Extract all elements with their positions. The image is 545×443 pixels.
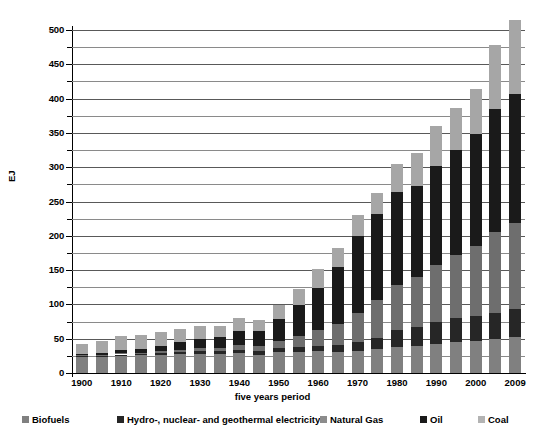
bar-segment-natural	[352, 313, 364, 343]
y-axis-tick-label: 100	[30, 298, 64, 309]
bar-segment-oil	[293, 305, 305, 336]
bar-1990	[430, 126, 442, 373]
bar-segment-oil	[391, 192, 403, 285]
bar-1940	[233, 318, 245, 373]
bar-segment-coal	[76, 344, 88, 354]
bar-segment-biofuels	[352, 351, 364, 373]
legend-item-coal[interactable]: Coal	[478, 414, 509, 425]
bar-segment-biofuels	[214, 354, 226, 373]
bar-segment-oil	[233, 331, 245, 345]
bar-segment-oil	[371, 214, 383, 300]
bar-segment-coal	[96, 341, 108, 353]
bar-2000	[470, 89, 482, 373]
bar-segment-natural	[332, 324, 344, 345]
bar-segment-biofuels	[332, 352, 344, 373]
bar-1935	[214, 326, 226, 373]
bar-segment-oil	[470, 134, 482, 246]
bar-1925	[174, 329, 186, 373]
legend-item-oil[interactable]: Oil	[420, 414, 443, 425]
bar-segment-natural	[293, 336, 305, 347]
bar-1985	[411, 153, 423, 373]
bar-segment-hydro	[489, 313, 501, 339]
bar-segment-natural	[135, 353, 147, 354]
x-axis-tick-label: 2009	[495, 377, 535, 388]
bar-segment-coal	[312, 269, 324, 287]
bar-2009	[509, 20, 521, 373]
bar-segment-oil	[489, 109, 501, 233]
legend-label: Biofuels	[32, 414, 69, 425]
bar-segment-oil	[430, 166, 442, 265]
bar-segment-biofuels	[312, 351, 324, 373]
bar-segment-natural	[115, 353, 127, 354]
legend-swatch-icon	[478, 416, 485, 423]
bar-segment-biofuels	[450, 342, 462, 373]
bar-segment-hydro	[509, 309, 521, 337]
legend-label: Hydro-, nuclear- and geothermal electric…	[127, 414, 320, 425]
bar-segment-biofuels	[194, 354, 206, 373]
bar-segment-natural	[76, 355, 88, 356]
x-axis-tick-label: 1920	[141, 377, 181, 388]
bar-1920	[155, 332, 167, 373]
bar-segment-oil	[115, 350, 127, 353]
bar-segment-hydro	[371, 338, 383, 349]
bar-segment-coal	[194, 326, 206, 338]
bar-1915	[135, 335, 147, 373]
chart-legend: BiofuelsHydro-, nuclear- and geothermal …	[0, 414, 545, 434]
bar-segment-natural	[174, 350, 186, 353]
x-axis-tick-label: 1930	[180, 377, 220, 388]
bar-segment-hydro	[214, 351, 226, 354]
plot-area	[72, 30, 525, 373]
bar-segment-hydro	[194, 351, 206, 354]
legend-swatch-icon	[117, 416, 124, 423]
bar-segment-coal	[214, 326, 226, 337]
bar-segment-biofuels	[411, 346, 423, 373]
bar-segment-natural	[253, 346, 265, 351]
y-axis-tick-label: 250	[30, 196, 64, 207]
y-axis-tick-label: 200	[30, 230, 64, 241]
bar-segment-coal	[371, 193, 383, 213]
legend-label: Coal	[488, 414, 509, 425]
y-axis-tick-label: 150	[30, 264, 64, 275]
bar-segment-coal	[450, 108, 462, 150]
bar-segment-oil	[174, 342, 186, 350]
legend-item-natural[interactable]: Natural Gas	[320, 414, 383, 425]
bar-segment-coal	[391, 164, 403, 192]
bar-segment-natural	[155, 351, 167, 353]
bar-1945	[253, 320, 265, 374]
bar-segment-oil	[135, 349, 147, 353]
bar-segment-hydro	[155, 353, 167, 355]
legend-item-hydro[interactable]: Hydro-, nuclear- and geothermal electric…	[117, 414, 320, 425]
bar-segment-hydro	[174, 352, 186, 354]
legend-item-biofuels[interactable]: Biofuels	[22, 414, 69, 425]
stacked-bar-chart: EJ 050100150200250300350400450500 190019…	[0, 0, 545, 443]
bar-segment-oil	[273, 319, 285, 341]
bar-segment-oil	[214, 337, 226, 348]
bar-segment-biofuels	[293, 352, 305, 373]
bar-1995	[450, 108, 462, 373]
bar-1960	[312, 269, 324, 373]
bar-segment-biofuels	[430, 344, 442, 373]
bar-segment-hydro	[450, 318, 462, 342]
x-axis-tick-label: 2000	[456, 377, 496, 388]
bar-segment-natural	[312, 330, 324, 346]
y-axis-tick-label: 50	[30, 333, 64, 344]
bar-segment-oil	[155, 346, 167, 351]
bar-segment-natural	[470, 246, 482, 316]
bar-segment-natural	[430, 265, 442, 322]
bar-1980	[391, 164, 403, 373]
legend-swatch-icon	[22, 416, 29, 423]
bar-segment-natural	[450, 255, 462, 318]
bar-segment-biofuels	[174, 354, 186, 373]
x-axis-tick-label: 1980	[377, 377, 417, 388]
bar-segment-coal	[174, 329, 186, 342]
bar-segment-natural	[391, 285, 403, 331]
bar-segment-natural	[96, 355, 108, 356]
x-axis-tick-label: 1990	[416, 377, 456, 388]
bar-segment-biofuels	[509, 337, 521, 373]
bar-segment-natural	[233, 345, 245, 350]
bar-segment-coal	[233, 318, 245, 331]
y-axis-tick-label: 400	[30, 93, 64, 104]
bar-segment-biofuels	[155, 355, 167, 373]
bar-segment-coal	[293, 289, 305, 305]
y-tick-major	[66, 373, 72, 374]
